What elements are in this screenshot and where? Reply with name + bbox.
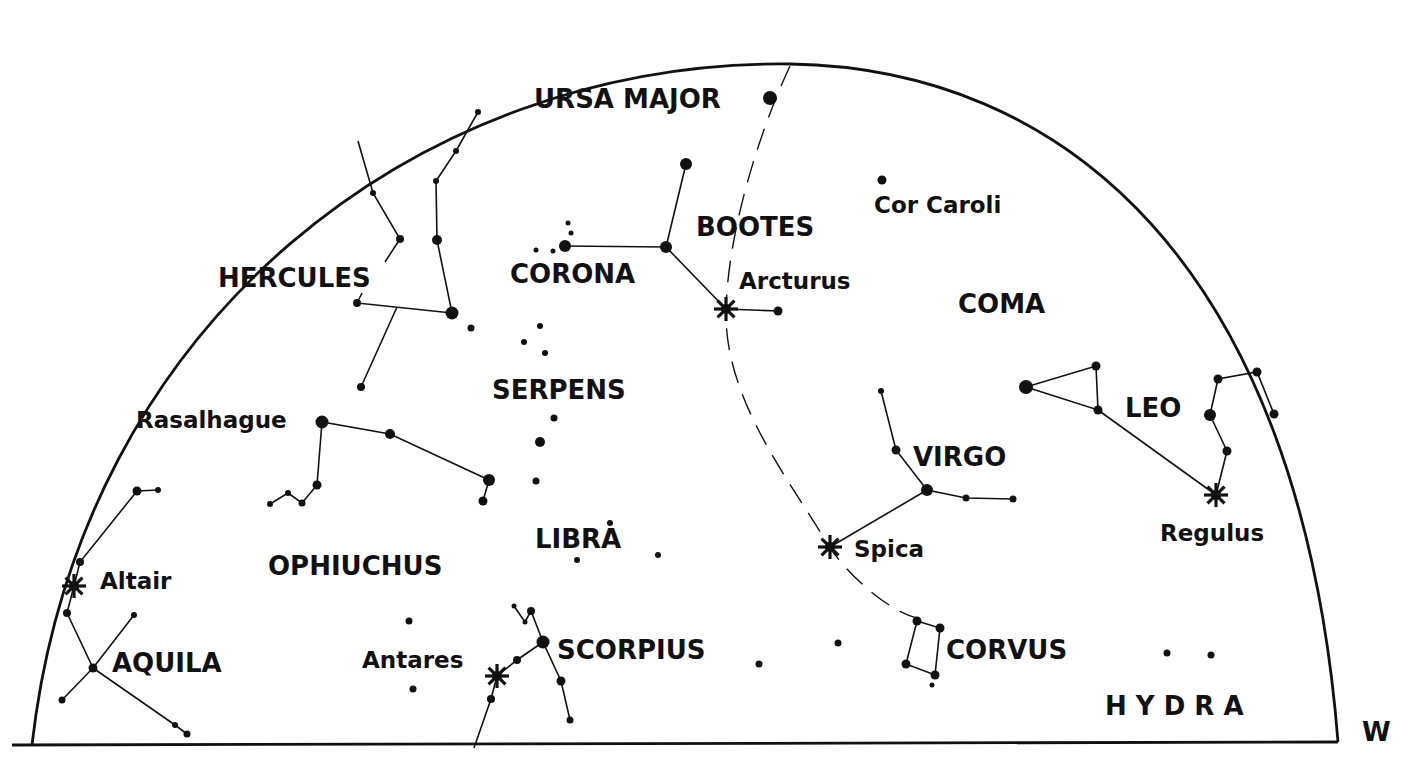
- star-dot: [63, 609, 71, 617]
- star-dot: [353, 299, 361, 307]
- star-name-label: Spica: [854, 536, 924, 562]
- star-dot: [902, 660, 911, 669]
- star-dot: [537, 636, 550, 649]
- star-dot: [963, 495, 970, 502]
- star-dot: [559, 240, 571, 252]
- star-dot: [551, 415, 558, 422]
- star-dot: [1223, 447, 1232, 456]
- star-dot: [131, 612, 137, 618]
- bright-star-icon: [714, 297, 738, 321]
- star-dot: [521, 339, 527, 345]
- star-dot: [660, 241, 672, 253]
- constellation-line: [1026, 366, 1098, 410]
- star-dot: [1164, 650, 1171, 657]
- star-dot: [878, 388, 884, 394]
- constellation-line: [474, 642, 543, 748]
- bright-star-icons: [62, 297, 1228, 688]
- star-dot: [557, 677, 566, 686]
- star-dot: [1208, 652, 1215, 659]
- star-dot: [299, 500, 306, 507]
- star-dot: [1010, 496, 1017, 503]
- star-dot: [89, 664, 98, 673]
- constellation-label: SCORPIUS: [557, 635, 706, 665]
- star-dot: [936, 624, 945, 633]
- star-dot: [1253, 368, 1262, 377]
- star-dot: [1094, 406, 1103, 415]
- constellation-label: AQUILA: [112, 648, 222, 678]
- constellation-label: LIBRA: [535, 524, 621, 554]
- star-dot: [172, 722, 178, 728]
- star-dot: [483, 474, 495, 486]
- star-dot: [285, 490, 291, 496]
- star-dot: [316, 416, 329, 429]
- star-dot: [1270, 410, 1279, 419]
- star-dot: [930, 683, 935, 688]
- bright-star-icon: [818, 535, 842, 559]
- constellation-line: [565, 246, 666, 247]
- star-name-label: Regulus: [1160, 520, 1264, 546]
- star-dot: [184, 731, 191, 738]
- star-dot: [512, 604, 517, 609]
- constellation-label: URSA MAJOR: [534, 84, 721, 114]
- constellation-line: [361, 307, 397, 387]
- constellation-label: COMA: [958, 289, 1045, 319]
- star-name-label: Antares: [362, 647, 463, 673]
- star-chart: URSA MAJORBOOTESHERCULESCORONACOMASERPEN…: [0, 0, 1416, 773]
- constellation-label: H Y D R A: [1105, 691, 1244, 721]
- star-name-label: Altair: [100, 568, 172, 594]
- star-dot: [313, 481, 322, 490]
- star-dot: [756, 661, 763, 668]
- star-name-label: Cor Caroli: [874, 192, 1001, 218]
- star-dot: [551, 249, 556, 254]
- constellation-line: [62, 668, 93, 700]
- star-dot: [357, 383, 365, 391]
- star-dot: [892, 446, 901, 455]
- star-dot: [1204, 409, 1216, 421]
- star-dot: [155, 487, 161, 493]
- star-dot: [534, 248, 539, 253]
- star-dot: [410, 686, 417, 693]
- star-dot: [487, 695, 495, 703]
- star-dot: [468, 325, 475, 332]
- constellation-line: [666, 164, 686, 247]
- constellation-label: BOOTES: [696, 212, 814, 242]
- star-dot: [432, 235, 442, 245]
- star-dot: [267, 501, 273, 507]
- star-dot: [774, 307, 783, 316]
- constellation-line: [270, 422, 489, 504]
- star-dot: [574, 557, 580, 563]
- horizon-line: [12, 742, 1338, 745]
- constellation-line: [666, 247, 726, 309]
- star-dot: [567, 717, 574, 724]
- star-dot: [569, 231, 574, 236]
- star-name-label: Rasalhague: [136, 407, 287, 433]
- constellation-line: [906, 621, 940, 675]
- star-dot: [446, 307, 459, 320]
- star-dot: [453, 148, 459, 154]
- star-dot: [835, 640, 842, 647]
- star-dot: [59, 697, 66, 704]
- west-direction-label: W: [1362, 717, 1391, 747]
- constellation-line: [358, 141, 400, 262]
- star-dot: [537, 323, 543, 329]
- star-dot: [1214, 375, 1223, 384]
- constellation-label: CORVUS: [946, 635, 1067, 665]
- star-dot: [479, 497, 488, 506]
- constellation-line: [357, 303, 452, 313]
- star-dot: [535, 437, 545, 447]
- star-name-label: Arcturus: [739, 268, 851, 294]
- star-dot: [655, 552, 661, 558]
- star-dot: [396, 235, 404, 243]
- star-dot: [76, 558, 84, 566]
- star-dot: [475, 109, 481, 115]
- star-dot: [133, 487, 142, 496]
- bright-star-icon: [62, 574, 86, 598]
- constellation-label: VIRGO: [913, 442, 1006, 472]
- star-dot: [566, 221, 571, 226]
- star-dot: [406, 618, 413, 625]
- constellation-label: CORONA: [510, 259, 635, 289]
- star-dot: [878, 176, 887, 185]
- star-dot: [1019, 380, 1033, 394]
- star-dot: [523, 620, 528, 625]
- star-dot: [513, 656, 521, 664]
